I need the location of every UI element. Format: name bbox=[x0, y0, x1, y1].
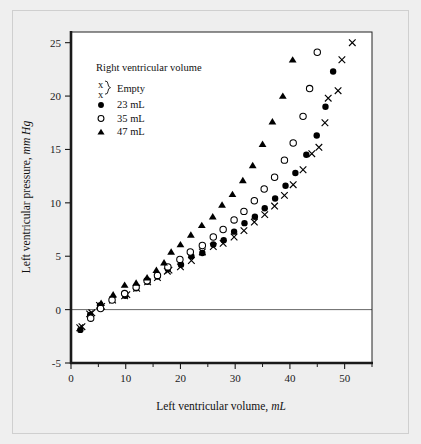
x-axis-tick-labels: 01020304050 bbox=[68, 372, 350, 384]
legend-label-35-ml: 35 mL bbox=[117, 113, 145, 124]
y-tick-label: 10 bbox=[50, 197, 62, 209]
data-point-open-circle bbox=[231, 217, 237, 223]
plot-panel-background bbox=[71, 32, 372, 363]
x-tick-label: 40 bbox=[284, 372, 296, 384]
data-point-filled-circle bbox=[314, 132, 320, 138]
data-point-filled-circle bbox=[272, 195, 278, 201]
data-point-open-circle bbox=[281, 157, 287, 163]
data-point-filled-circle bbox=[252, 214, 258, 220]
y-axis-tick-labels: -50510152025 bbox=[50, 37, 62, 369]
y-tick-label: 15 bbox=[50, 143, 62, 155]
x-axis-title: Left ventricular volume, mL bbox=[156, 400, 286, 413]
x-tick-label: 50 bbox=[339, 372, 351, 384]
data-point-open-circle bbox=[271, 174, 277, 180]
y-tick-label: -5 bbox=[52, 357, 62, 369]
data-point-open-circle bbox=[220, 226, 226, 232]
legend-marker-filled-circle bbox=[98, 102, 104, 108]
data-point-open-circle bbox=[314, 49, 320, 55]
y-tick-label: 20 bbox=[50, 90, 62, 102]
data-point-open-circle bbox=[290, 140, 296, 146]
data-point-filled-circle bbox=[262, 205, 268, 211]
x-tick-label: 30 bbox=[230, 372, 242, 384]
y-tick-label: 0 bbox=[56, 304, 62, 316]
data-point-filled-circle bbox=[199, 250, 205, 256]
data-point-filled-circle bbox=[330, 68, 336, 74]
data-point-open-circle bbox=[109, 297, 115, 303]
data-point-filled-circle bbox=[292, 170, 298, 176]
x-tick-label: 0 bbox=[68, 372, 74, 384]
legend-title: Right ventricular volume bbox=[96, 62, 202, 73]
data-point-filled-circle bbox=[241, 220, 247, 226]
y-tick-label: 25 bbox=[50, 37, 62, 49]
data-point-open-circle bbox=[300, 113, 306, 119]
data-point-filled-circle bbox=[210, 241, 216, 247]
data-point-open-circle bbox=[261, 186, 267, 192]
data-point-open-circle bbox=[88, 315, 94, 321]
y-axis-title: Left ventricular pressure, mm Hg bbox=[20, 121, 33, 274]
data-point-open-circle bbox=[187, 249, 193, 255]
data-point-filled-circle bbox=[231, 228, 237, 234]
data-point-filled-circle bbox=[303, 152, 309, 158]
data-point-open-circle bbox=[97, 305, 103, 311]
data-point-filled-circle bbox=[220, 237, 226, 243]
legend-label-47-ml: 47 mL bbox=[117, 126, 145, 137]
legend-label-23-ml: 23 mL bbox=[117, 99, 145, 110]
data-point-filled-circle bbox=[282, 183, 288, 189]
x-tick-label: 10 bbox=[120, 372, 132, 384]
data-point-open-circle bbox=[121, 290, 127, 296]
scatter-chart: 01020304050 -50510152025 Right ventricul… bbox=[0, 0, 421, 444]
data-point-open-circle bbox=[199, 242, 205, 248]
legend-marker-x-lower: x bbox=[98, 89, 104, 100]
y-tick-label: 5 bbox=[56, 250, 62, 262]
data-point-open-circle bbox=[241, 208, 247, 214]
data-point-filled-circle bbox=[77, 327, 83, 333]
data-point-open-circle bbox=[251, 198, 257, 204]
data-point-open-circle bbox=[154, 272, 160, 278]
x-tick-label: 20 bbox=[175, 372, 187, 384]
legend-marker-open-circle bbox=[98, 116, 104, 122]
data-point-open-circle bbox=[177, 256, 183, 262]
data-point-open-circle bbox=[306, 85, 312, 91]
data-point-open-circle bbox=[210, 234, 216, 240]
legend-label-empty: Empty bbox=[117, 83, 146, 94]
data-point-filled-circle bbox=[322, 104, 328, 110]
